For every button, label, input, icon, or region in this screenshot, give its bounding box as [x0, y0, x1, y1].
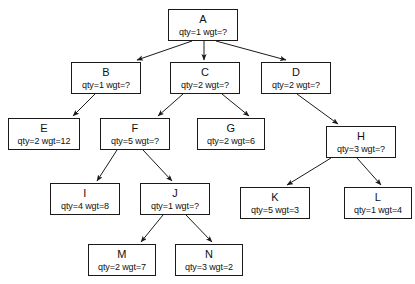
node-g[interactable]: Gqty=2 wgt=6 — [197, 118, 265, 150]
edge-j-to-m — [141, 215, 163, 242]
node-k-label: K — [271, 191, 279, 204]
node-d[interactable]: Dqty=2 wgt=? — [261, 62, 331, 94]
node-m-label: M — [117, 248, 126, 261]
node-k-attributes: qty=5 wgt=3 — [251, 204, 299, 216]
node-a-attributes: qty=1 wgt=? — [179, 26, 227, 38]
node-a[interactable]: Aqty=1 wgt=? — [168, 9, 238, 41]
bom-tree-diagram: Aqty=1 wgt=?Bqty=1 wgt=?Cqty=2 wgt=?Dqty… — [0, 0, 415, 284]
node-j[interactable]: Jqty=1 wgt=? — [140, 183, 210, 215]
node-f[interactable]: Fqty=5 wgt=? — [100, 118, 170, 150]
edge-h-to-l — [357, 158, 381, 185]
edge-a-to-b — [137, 41, 192, 60]
edge-f-to-j — [143, 150, 172, 181]
node-f-label: F — [132, 122, 139, 135]
edge-c-to-g — [222, 94, 249, 116]
node-g-attributes: qty=2 wgt=6 — [207, 135, 255, 147]
node-n-label: N — [205, 248, 213, 261]
edge-b-to-e — [73, 94, 95, 116]
node-b-attributes: qty=1 wgt=? — [82, 79, 130, 91]
edge-f-to-i — [97, 150, 117, 181]
node-m-attributes: qty=2 wgt=7 — [98, 261, 146, 273]
node-j-label: J — [172, 187, 178, 200]
node-h-attributes: qty=3 wgt=? — [337, 143, 385, 155]
node-i[interactable]: Iqty=4 wgt=8 — [50, 183, 120, 215]
node-g-label: G — [227, 122, 236, 135]
node-b-label: B — [102, 66, 110, 79]
node-h-label: H — [357, 130, 365, 143]
node-j-attributes: qty=1 wgt=? — [151, 200, 199, 212]
node-a-label: A — [199, 13, 207, 26]
node-k[interactable]: Kqty=5 wgt=3 — [240, 187, 310, 219]
node-i-attributes: qty=4 wgt=8 — [61, 200, 109, 212]
node-l[interactable]: Lqty=1 wgt=4 — [344, 187, 412, 219]
edge-c-to-f — [158, 94, 183, 116]
node-d-label: D — [292, 66, 300, 79]
node-n[interactable]: Nqty=3 wgt=2 — [175, 244, 243, 276]
node-e[interactable]: Eqty=2 wgt=12 — [8, 118, 80, 150]
node-n-attributes: qty=3 wgt=2 — [185, 261, 233, 273]
node-d-attributes: qty=2 wgt=? — [272, 79, 320, 91]
edge-j-to-n — [186, 215, 212, 242]
node-h[interactable]: Hqty=3 wgt=? — [326, 126, 396, 158]
node-i-label: I — [83, 187, 86, 200]
node-b[interactable]: Bqty=1 wgt=? — [71, 62, 141, 94]
node-e-label: E — [40, 122, 48, 135]
edge-d-to-h — [297, 94, 338, 124]
edge-a-to-d — [216, 41, 286, 60]
edge-h-to-k — [287, 158, 331, 185]
node-l-attributes: qty=1 wgt=4 — [354, 204, 402, 216]
node-f-attributes: qty=5 wgt=? — [111, 135, 159, 147]
node-l-label: L — [375, 191, 381, 204]
node-c-attributes: qty=2 wgt=? — [181, 79, 229, 91]
node-c[interactable]: Cqty=2 wgt=? — [170, 62, 240, 94]
node-m[interactable]: Mqty=2 wgt=7 — [88, 244, 156, 276]
node-e-attributes: qty=2 wgt=12 — [18, 135, 71, 147]
node-c-label: C — [201, 66, 209, 79]
